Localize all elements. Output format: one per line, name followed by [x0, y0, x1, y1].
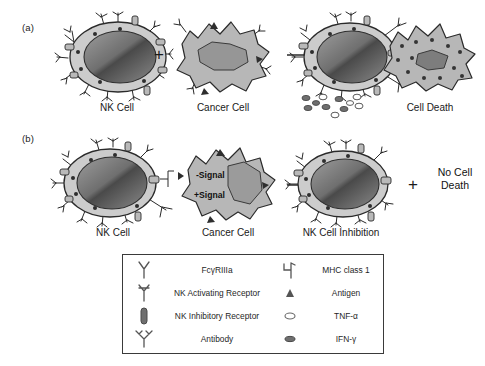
legend-grid: FcγRIIIa MHC class 1 NK Activating Recep… [123, 255, 383, 353]
legend-label-nk-activating-receptor: NK Activating Receptor [161, 288, 273, 298]
nk-cell-panel-a [48, 12, 188, 100]
mhc-class-1-icon [273, 258, 307, 281]
nk-cell-inhibited-panel-b [282, 140, 398, 224]
caption-cancer-cell-b: Cancer Cell [172, 227, 284, 238]
plus-operator-panel-b: + [408, 176, 418, 193]
fc-gamma-r3a-icon [127, 258, 161, 281]
no-cell-death-line2: Death [428, 179, 482, 192]
caption-cancer-cell-a: Cancer Cell [168, 102, 278, 113]
antigen-icon [273, 281, 307, 304]
antibody-icon [127, 327, 161, 350]
legend-label-ifn-gamma: IFN-γ [307, 334, 385, 344]
legend-label-antibody: Antibody [161, 334, 273, 344]
caption-nk-cell-b: NK Cell [58, 227, 168, 238]
positive-signal-label: +Signal [194, 190, 225, 200]
caption-cell-death-a: Cell Death [382, 102, 478, 113]
released-cytokines-panel-a [300, 92, 372, 118]
tnf-alpha-icon [273, 304, 307, 327]
legend-label-fc-gamma-r3a: FcγRIIIa [161, 265, 273, 275]
negative-signal-label: -Signal [196, 170, 225, 180]
legend-label-nk-inhibitory-receptor: NK Inhibitory Receptor [161, 311, 273, 321]
caption-nk-cell-a: NK Cell [62, 102, 172, 113]
caption-nk-cell-inhibition: NK Cell Inhibition [280, 227, 402, 238]
panel-b-label: (b) [22, 133, 34, 144]
legend-label-tnf-alpha: TNF-α [307, 311, 385, 321]
panel-a-label: (a) [22, 22, 34, 33]
nk-activating-receptor-icon [127, 281, 161, 304]
ifn-gamma-icon [273, 327, 307, 350]
cancer-cell-panel-b [176, 142, 280, 224]
cancer-cell-panel-a [168, 14, 278, 100]
nk-cell-panel-b [48, 138, 184, 224]
no-cell-death-line1: No Cell [428, 166, 482, 179]
dying-cancer-cell-panel-a [382, 20, 478, 92]
legend-label-mhc-class-1: MHC class 1 [307, 265, 385, 275]
legend-label-antigen: Antigen [307, 288, 385, 298]
nk-inhibitory-receptor-icon [127, 304, 161, 327]
legend-box: FcγRIIIa MHC class 1 NK Activating Recep… [122, 254, 384, 354]
figure-canvas: (a) [0, 0, 485, 366]
plus-operator-panel-a: + [154, 46, 164, 63]
